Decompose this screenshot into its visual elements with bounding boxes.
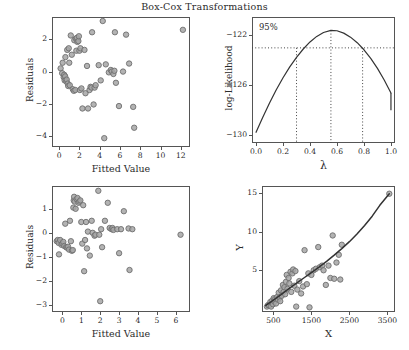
y-tick-label: −3 [10,300,47,309]
y-tick [249,135,252,136]
y-tick-label: 2 [10,34,47,43]
x-tick-label: 12 [161,151,201,160]
x-tick-label: 1500 [291,316,331,325]
x-tick [119,312,120,315]
y-tick [49,72,52,73]
x-tick [391,143,392,146]
x-tick [161,147,162,150]
y-tick-label: 15 [220,188,257,197]
x-tick [311,312,312,315]
x-tick-label: 2500 [329,316,369,325]
y-tick [249,35,252,36]
x-tick [138,312,139,315]
x-tick [79,147,80,150]
x-tick [100,312,101,315]
x-tick [349,312,350,315]
x-tick [387,312,388,315]
x-tick-label: 3500 [367,316,407,325]
y-tick-label: 10 [220,227,257,236]
y-tick [259,232,262,233]
y-tick [249,85,252,86]
x-tick [81,312,82,315]
x-tick [283,143,284,146]
y-tick [49,305,52,306]
figure-canvas: Box-Cox Transformations Residuals Fitted… [0,0,409,350]
scatter-y-vs-x [0,0,409,350]
y-tick-label: −2 [10,276,47,285]
y-tick [49,257,52,258]
y-tick-label: 0 [10,228,47,237]
y-tick [49,104,52,105]
y-tick-label: −2 [10,99,47,108]
y-tick [49,281,52,282]
x-tick [364,143,365,146]
y-tick-label: 1 [10,204,47,213]
y-tick-label: 5 [220,265,257,274]
x-tick [176,312,177,315]
axis-label-x: X [262,328,395,339]
y-tick [49,233,52,234]
x-tick-label: 6 [156,316,196,325]
x-tick [256,143,257,146]
y-tick-label: −122 [210,30,247,39]
y-tick-label: −130 [210,130,247,139]
x-tick-label: 500 [253,316,293,325]
x-tick [157,312,158,315]
x-tick-label: 1.0 [371,147,409,156]
x-tick [140,147,141,150]
y-tick-label: −4 [10,131,47,140]
x-tick [181,147,182,150]
y-tick-label: −1 [10,252,47,261]
y-tick [49,39,52,40]
y-tick-label: 0 [10,67,47,76]
x-tick [310,143,311,146]
x-tick [62,312,63,315]
x-tick [120,147,121,150]
y-tick [259,270,262,271]
y-tick [49,136,52,137]
y-tick-label: −126 [210,80,247,89]
x-tick [59,147,60,150]
x-tick [100,147,101,150]
x-tick [337,143,338,146]
y-tick [49,209,52,210]
x-tick [273,312,274,315]
y-tick [259,193,262,194]
